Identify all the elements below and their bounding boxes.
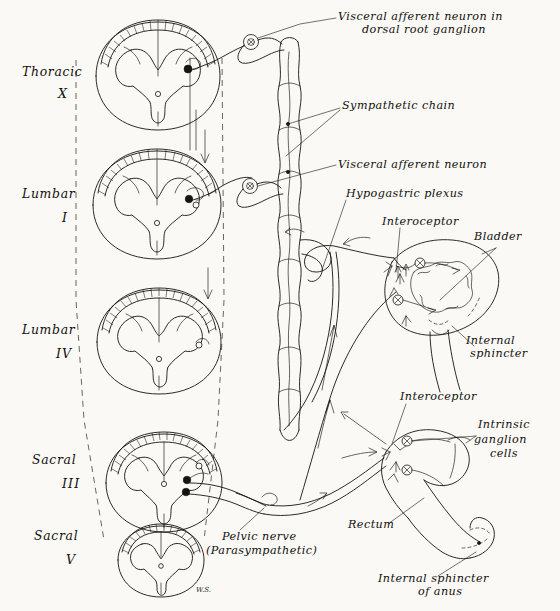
label-intrinsic-ganglion-line3: cells bbox=[490, 447, 518, 460]
label-bladder: Bladder bbox=[473, 230, 522, 243]
label-interoceptor-rectum: Interoceptor bbox=[399, 390, 477, 403]
level-name: Thoracic bbox=[22, 64, 82, 79]
label-visceral-afferent-drg-line2: dorsal root ganglion bbox=[362, 23, 486, 36]
label-internal-sphincter-line1: Internal bbox=[465, 334, 515, 347]
spinal-cord-thoracic-10 bbox=[96, 20, 254, 150]
level-numeral: I bbox=[61, 210, 68, 225]
level-numeral: V bbox=[66, 552, 77, 567]
label-pelvic-nerve-line2: (Parasympathetic) bbox=[206, 544, 317, 557]
level-label-thoracic-10: Thoracic X bbox=[22, 64, 82, 101]
label-internal-sphincter-anus-line2: of anus bbox=[418, 585, 462, 598]
label-interoceptor-bladder: Interoceptor bbox=[381, 215, 459, 228]
label-pelvic-nerve-line1: Pelvic nerve bbox=[221, 530, 296, 543]
label-visceral-afferent-neuron: Visceral afferent neuron bbox=[338, 158, 487, 171]
rectum bbox=[341, 412, 494, 559]
sympathetic-chain bbox=[278, 38, 301, 441]
label-intrinsic-ganglion-line1: Intrinsic bbox=[477, 418, 530, 431]
anatomical-figure: W.S. bbox=[0, 0, 560, 611]
spinal-cord-sacral-3 bbox=[106, 432, 268, 532]
level-label-lumbar-1: Lumbar I bbox=[21, 186, 76, 225]
level-label-sacral-3: Sacral III bbox=[32, 452, 80, 491]
label-hypogastric-plexus: Hypogastric plexus bbox=[345, 187, 464, 200]
rectum-ganglion-lower bbox=[402, 465, 412, 475]
spinal-cord-sacral-5: W.S. bbox=[118, 524, 211, 597]
level-name: Lumbar bbox=[21, 186, 76, 201]
level-name: Sacral bbox=[34, 528, 78, 543]
spinal-cord-lumbar-1 bbox=[93, 130, 252, 259]
level-label-sacral-5: Sacral V bbox=[34, 528, 78, 567]
bladder-ganglion-upper bbox=[415, 258, 425, 268]
label-sympathetic-chain: Sympathetic chain bbox=[342, 99, 455, 112]
rectum-ganglion-upper bbox=[402, 436, 412, 446]
label-intrinsic-ganglion-line2: ganglion bbox=[474, 433, 527, 446]
level-name: Sacral bbox=[32, 452, 76, 467]
artist-signature: W.S. bbox=[196, 586, 211, 594]
dorsal-root-ganglion-lower bbox=[237, 179, 283, 208]
level-numeral: IV bbox=[55, 346, 73, 361]
level-numeral: X bbox=[57, 86, 68, 101]
dorsal-root-ganglion-upper bbox=[238, 35, 284, 64]
pelvic-nerve bbox=[236, 292, 396, 516]
level-label-lumbar-4: Lumbar IV bbox=[21, 322, 76, 361]
label-internal-sphincter-line2: sphincter bbox=[470, 347, 528, 360]
bladder-ganglion-lower bbox=[393, 295, 403, 305]
level-numeral: III bbox=[61, 476, 80, 491]
level-name: Lumbar bbox=[21, 322, 76, 337]
label-internal-sphincter-anus-line1: Internal sphincter bbox=[377, 572, 489, 585]
spinal-cord-lumbar-4 bbox=[97, 268, 221, 394]
rectum-interoceptor-endings bbox=[382, 444, 406, 482]
label-visceral-afferent-drg-line1: Visceral afferent neuron in bbox=[338, 10, 503, 23]
label-rectum: Rectum bbox=[347, 518, 394, 531]
bladder bbox=[384, 240, 499, 392]
